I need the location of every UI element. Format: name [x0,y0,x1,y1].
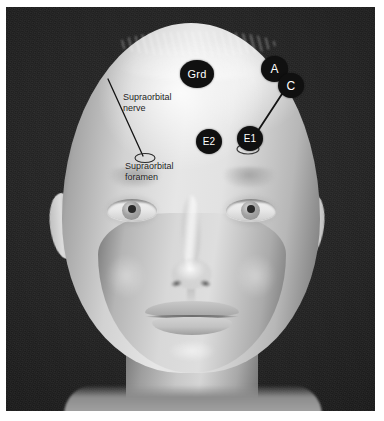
figure-container: GrdACE2E1 Supraorbital nerveSupraorbital… [0,0,384,421]
active-electrode-marker-text: E1 [244,134,257,144]
reference-electrode-marker[interactable]: E2 [196,129,222,154]
active-electrode-marker[interactable]: E1 [237,126,263,151]
supraorbital-foramen-label: Supraorbital foramen [125,161,174,182]
supraorbital-nerve-label: Supraorbital nerve [123,92,172,113]
cathode-electrode-marker-text: C [287,80,296,92]
photograph-plate: GrdACE2E1 Supraorbital nerveSupraorbital… [6,7,375,411]
ground-electrode-marker[interactable]: Grd [180,60,214,88]
anode-electrode-marker-text: A [270,63,278,75]
supraorbital-nerve-leader-line [108,79,143,156]
cathode-electrode-marker[interactable]: C [278,73,304,98]
ground-electrode-marker-text: Grd [188,69,207,80]
reference-electrode-marker-text: E2 [203,137,216,147]
